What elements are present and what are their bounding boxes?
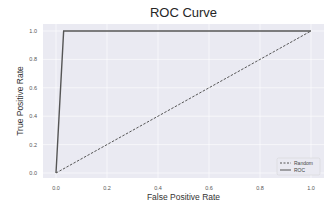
x-tick-label: 0.0: [52, 185, 60, 191]
x-tick-label: 0.2: [103, 185, 111, 191]
legend: Random ROC: [277, 158, 320, 175]
y-axis-label: True Positive Rate: [15, 66, 25, 136]
chart-title: ROC Curve: [150, 5, 217, 20]
y-tick-label: 0.0: [29, 170, 37, 176]
legend-roc-label: ROC: [294, 167, 306, 173]
y-tick-label: 0.2: [29, 142, 37, 148]
y-tick-label: 0.6: [29, 85, 37, 91]
x-tick-label: 0.6: [205, 185, 213, 191]
y-tick-label: 1.0: [29, 28, 37, 34]
plot-area: [43, 24, 324, 178]
x-tick-label: 1.0: [307, 185, 315, 191]
roc-chart: 0.00.20.40.60.81.0 0.00.20.40.60.81.0 RO…: [0, 0, 336, 211]
y-tick-label: 0.8: [29, 56, 37, 62]
x-axis-label: False Positive Rate: [147, 192, 220, 202]
legend-random-label: Random: [294, 160, 313, 166]
y-tick-label: 0.4: [29, 113, 37, 119]
x-tick-label: 0.4: [154, 185, 162, 191]
x-tick-label: 0.8: [256, 185, 264, 191]
